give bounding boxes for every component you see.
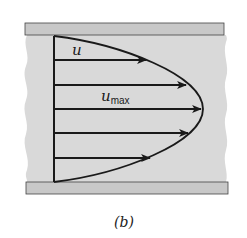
label-u-max-subscript: max [111, 95, 130, 106]
label-u-max-main: u [101, 87, 111, 105]
bottom-wall [26, 182, 228, 194]
velocity-profile-diagram: u umax (b) [0, 0, 247, 238]
figure-caption: (b) [114, 214, 134, 230]
top-wall [25, 23, 224, 35]
label-u: u [72, 41, 82, 59]
